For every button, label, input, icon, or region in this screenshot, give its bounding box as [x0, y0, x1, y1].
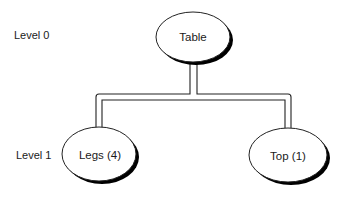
connector-outer-left [96, 64, 190, 128]
hierarchy-diagram: Level 0 Level 1 Table Legs (4) Top (1) [0, 0, 343, 199]
connector-outer-right [197, 64, 291, 128]
level-0-label: Level 0 [14, 29, 49, 41]
node-label-legs: Legs (4) [79, 149, 121, 161]
node-label-table: Table [179, 31, 207, 43]
node-legs: Legs (4) [62, 127, 139, 184]
node-label-top: Top (1) [270, 150, 306, 162]
level-1-label: Level 1 [16, 149, 51, 161]
node-top: Top (1) [249, 128, 330, 185]
connector-pipe [96, 64, 291, 128]
connector-inner [102, 100, 285, 128]
node-table: Table [156, 12, 233, 65]
